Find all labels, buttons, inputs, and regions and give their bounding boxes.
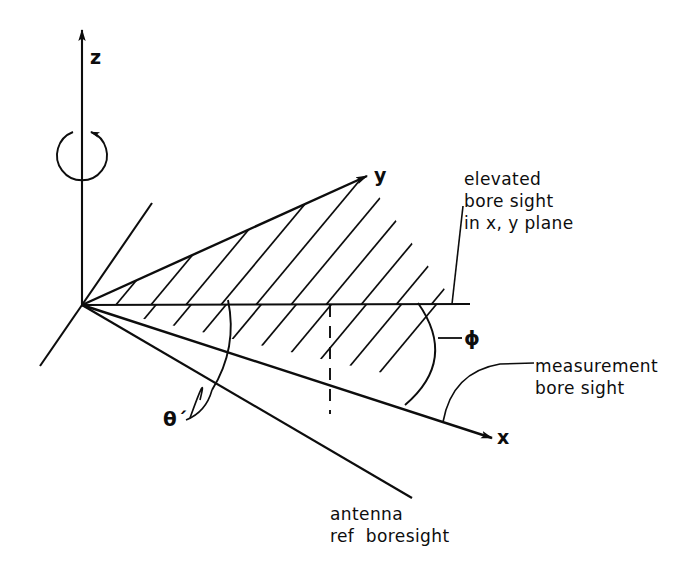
measurement-boresight-leader	[443, 363, 534, 422]
diagram-vector-layer	[0, 0, 682, 565]
z-axis-label: z	[90, 46, 101, 68]
measurement-boresight-label: measurement bore sight	[535, 355, 658, 399]
theta-angle-arc	[212, 300, 231, 390]
antenna-ref-boresight-line	[82, 305, 412, 498]
phi-angle-label: ϕ	[464, 327, 480, 349]
antenna-ref-boresight-label: antenna ref boresight	[330, 503, 450, 547]
theta-angle-label: θ´	[163, 408, 188, 430]
hatch-fill-lower	[60, 240, 595, 420]
phi-angle-arc	[405, 303, 435, 405]
x-axis-label: x	[497, 426, 510, 448]
negative-x-axis	[40, 305, 82, 366]
y-axis-label: y	[374, 164, 387, 186]
y-axis	[82, 176, 367, 305]
elevated-boresight-label: elevated bore sight in x, y plane	[464, 168, 574, 234]
elevated-boresight-leader	[452, 206, 463, 304]
diagram-canvas: z y x ϕ θ´ elevated bore sight in x, y p…	[0, 0, 682, 565]
horizontal-reference-line	[82, 304, 470, 305]
